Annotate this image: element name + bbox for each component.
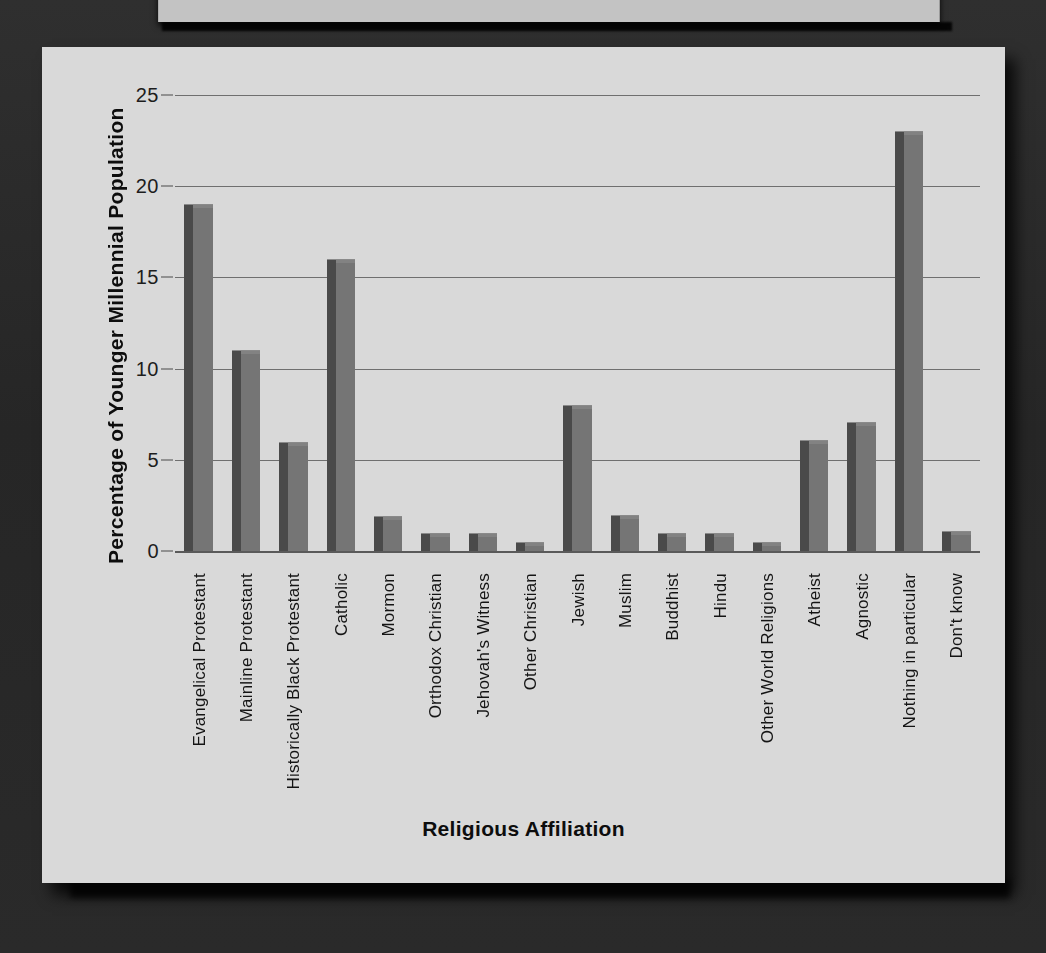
bar[interactable]	[184, 204, 212, 551]
top-panel-shadow	[162, 22, 952, 31]
x-axis-tick-label: Other Christian	[521, 573, 541, 690]
screenshot-root: Percentage of Younger Millennial Populat…	[0, 0, 1046, 953]
gridline	[175, 551, 980, 553]
bar-slot	[800, 440, 828, 551]
bar[interactable]	[516, 542, 544, 551]
y-axis-title: Percentage of Younger Millennial Populat…	[104, 94, 128, 564]
bar[interactable]	[327, 259, 355, 551]
y-axis-tick-mark	[161, 186, 173, 187]
bars-group	[175, 95, 980, 551]
top-cropped-panel	[158, 0, 940, 22]
x-axis-tick-label: Other World Religions	[758, 573, 778, 743]
x-axis-tick-label: Historically Black Protestant	[284, 573, 304, 789]
y-axis-tick-label: 20	[136, 175, 159, 198]
x-axis-title: Religious Affiliation	[42, 817, 1005, 841]
bar-slot	[563, 405, 591, 551]
chart-panel: Percentage of Younger Millennial Populat…	[42, 47, 1005, 883]
bar-slot	[895, 131, 923, 551]
x-axis-tick-label: Nothing in particular	[900, 573, 920, 728]
bar-slot	[327, 259, 355, 551]
bar-slot	[421, 533, 449, 551]
bar[interactable]	[563, 405, 591, 551]
y-axis-tick-mark	[161, 368, 173, 369]
x-axis-tick-label: Atheist	[805, 573, 825, 626]
bar[interactable]	[469, 533, 497, 551]
bar[interactable]	[421, 533, 449, 551]
bar-slot	[705, 533, 733, 551]
x-axis-tick-label: Mainline Protestant	[237, 573, 257, 722]
bar-slot	[516, 542, 544, 551]
y-axis-tick-label: 25	[136, 84, 159, 107]
y-axis-tick-mark	[161, 277, 173, 278]
bar-slot	[232, 350, 260, 551]
bar[interactable]	[705, 533, 733, 551]
bar[interactable]	[895, 131, 923, 551]
x-axis-tick-label: Jehovah's Witness	[474, 573, 494, 718]
x-axis-tick-label: Muslim	[616, 573, 636, 628]
bar-slot	[942, 531, 970, 551]
bar-slot	[847, 422, 875, 552]
bar[interactable]	[232, 350, 260, 551]
x-axis-tick-label: Hindu	[711, 573, 731, 618]
x-axis-tick-label: Catholic	[332, 573, 352, 636]
y-axis-tick-label: 15	[136, 266, 159, 289]
bar[interactable]	[847, 422, 875, 552]
bar-slot	[374, 516, 402, 551]
y-axis-tick-mark	[161, 551, 173, 552]
bar-slot	[469, 533, 497, 551]
y-axis-tick-mark	[161, 95, 173, 96]
bar[interactable]	[658, 533, 686, 551]
bar-slot	[279, 442, 307, 551]
y-axis-tick-label: 5	[147, 448, 159, 471]
x-axis-tick-label: Jewish	[569, 573, 589, 626]
bar[interactable]	[611, 515, 639, 551]
y-axis-tick-mark	[161, 459, 173, 460]
bar[interactable]	[800, 440, 828, 551]
x-axis-tick-label: Agnostic	[853, 573, 873, 640]
bar-slot	[184, 204, 212, 551]
x-axis-tick-label: Evangelical Protestant	[190, 573, 210, 747]
x-axis-tick-label: Buddhist	[663, 573, 683, 641]
bar[interactable]	[374, 516, 402, 551]
plot-area: 0510152025 Evangelical ProtestantMainlin…	[175, 95, 980, 551]
x-axis-tick-label: Orthodox Christian	[426, 573, 446, 718]
bar[interactable]	[942, 531, 970, 551]
y-axis-tick-label: 10	[136, 357, 159, 380]
bar-slot	[658, 533, 686, 551]
y-axis-tick-label: 0	[147, 540, 159, 563]
x-axis-tick-label: Don't know	[947, 573, 967, 659]
bar[interactable]	[279, 442, 307, 551]
bar-slot	[753, 542, 781, 551]
bar-slot	[611, 515, 639, 551]
bar[interactable]	[753, 542, 781, 551]
x-axis-tick-label: Mormon	[379, 573, 399, 637]
